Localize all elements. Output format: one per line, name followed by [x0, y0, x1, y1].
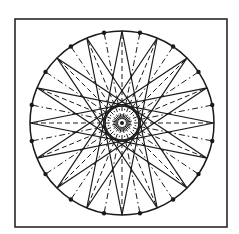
star-diagram — [0, 0, 239, 234]
circle-dot — [69, 44, 73, 48]
circle-dot — [30, 139, 34, 143]
circle-dot — [210, 139, 214, 143]
circle-dot — [30, 103, 34, 107]
circle-dot — [210, 103, 214, 107]
circle-dot — [43, 70, 47, 74]
circle-dot — [196, 70, 200, 74]
circle-dot — [196, 172, 200, 176]
circle-dot — [102, 211, 106, 215]
circle-dot — [138, 211, 142, 215]
circle-dot — [43, 172, 47, 176]
circle-dot — [69, 197, 73, 201]
circle-dot — [102, 31, 106, 35]
circle-dot — [171, 44, 175, 48]
center-dot — [120, 121, 124, 125]
circle-dot — [138, 31, 142, 35]
circle-dot — [171, 197, 175, 201]
